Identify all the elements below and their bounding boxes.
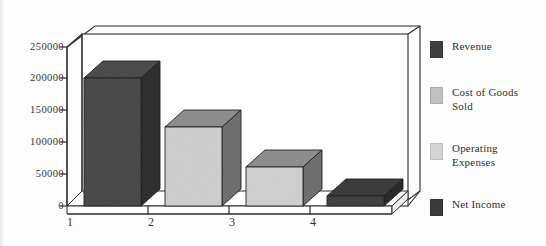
legend-item-net-income[interactable]: Net Income <box>430 198 546 216</box>
legend-swatch-icon <box>430 87 443 104</box>
y-tick-label: 250000 <box>30 41 64 52</box>
bar-cost-of-goods-sold[interactable] <box>165 110 241 206</box>
y-tick-label: 100000 <box>30 136 64 147</box>
legend-swatch-icon <box>430 41 443 58</box>
legend-item-cost-of-goods-sold[interactable]: Cost of Goods Sold <box>430 86 546 113</box>
bar-revenue[interactable] <box>84 61 160 206</box>
y-axis-tick-labels: 250000 200000 150000 100000 50000 0 <box>8 0 64 246</box>
chart-legend: Revenue Cost of Goods Sold Operating Exp… <box>430 34 546 224</box>
legend-item-revenue[interactable]: Revenue <box>430 40 546 58</box>
legend-item-label: Cost of Goods Sold <box>452 86 518 113</box>
legend-swatch-icon <box>430 199 443 216</box>
legend-swatch-icon <box>430 143 443 160</box>
x-axis-tick-labels: 1 2 3 4 <box>0 216 420 238</box>
x-tick-label: 1 <box>57 216 83 229</box>
bar-operating-expenses[interactable] <box>246 150 322 206</box>
legend-item-operating-expenses[interactable]: Operating Expenses <box>430 142 546 169</box>
legend-item-label: Revenue <box>452 40 492 54</box>
legend-item-label: Net Income <box>452 198 506 212</box>
x-tick-label: 4 <box>300 216 326 229</box>
y-tick-label: 50000 <box>36 168 64 179</box>
legend-item-label: Operating Expenses <box>452 142 498 169</box>
bar-chart-3d: 250000 200000 150000 100000 50000 0 1 2 … <box>0 0 546 246</box>
y-tick-label: 0 <box>58 200 64 211</box>
y-tick-label: 150000 <box>30 104 64 115</box>
y-tick-label: 200000 <box>30 72 64 83</box>
x-tick-label: 2 <box>138 216 164 229</box>
x-tick-label: 3 <box>219 216 245 229</box>
